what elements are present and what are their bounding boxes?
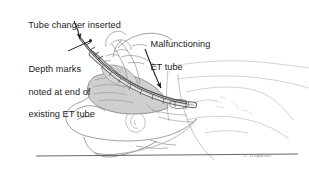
annotation-depth-marks-line2: noted at end of (28, 87, 90, 97)
annotation-malfunctioning-line1: Malfunctioning (150, 39, 210, 49)
medical-illustration-figure: Tube changer inserted Malfunctioning ET … (0, 0, 309, 174)
annotation-malfunctioning-line2: ET tube (150, 62, 182, 72)
annotation-depth-marks-line3: existing ET tube (28, 109, 95, 119)
annotation-malfunctioning-et-tube: Malfunctioning ET tube (140, 28, 210, 84)
annotation-depth-marks: Depth marks noted at end of existing ET … (18, 53, 95, 131)
shoulder-curve (167, 71, 214, 160)
artist-signature: J. Hopkins (243, 153, 272, 158)
faint-anatomy-marks (214, 96, 252, 115)
annotation-tube-changer-line1: Tube changer inserted (28, 20, 121, 30)
annotation-tube-changer: Tube changer inserted (18, 9, 121, 43)
annotation-depth-marks-line1: Depth marks (28, 64, 81, 74)
